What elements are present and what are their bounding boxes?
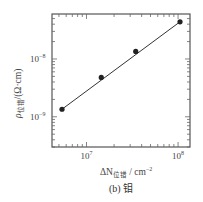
chart: 10710810−810−9 ρ位错/(Ω·cm) ΔN位错 / cm−2 (b… (0, 0, 203, 202)
figure-caption: (b) 钼 (109, 182, 133, 195)
tick-labels: 10710810−810−9 (30, 53, 184, 161)
plot-frame (52, 14, 190, 147)
y-tick-label: 10−8 (30, 53, 45, 64)
fit-line (62, 22, 180, 109)
data-point (99, 75, 104, 80)
data-point (59, 107, 64, 112)
y-tick-label: 10−9 (30, 111, 45, 122)
data-point (133, 49, 138, 54)
axis-ticks (52, 14, 190, 147)
x-axis-label: ΔN位错 / cm−2 (100, 166, 152, 179)
y-axis-label: ρ位错/(Ω·cm) (13, 69, 25, 119)
x-tick-label: 108 (172, 150, 184, 161)
x-tick-label: 107 (80, 150, 92, 161)
data-point (177, 19, 182, 24)
